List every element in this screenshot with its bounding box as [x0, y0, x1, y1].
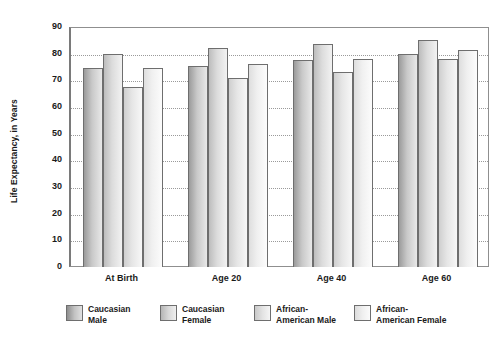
bar[interactable] — [458, 50, 478, 267]
y-tick-label-60: 60 — [34, 102, 62, 111]
bar[interactable] — [333, 72, 353, 267]
x-tick-label-4: Age 60 — [384, 273, 489, 283]
bar[interactable] — [123, 87, 143, 267]
legend-item-3[interactable]: African- American Male — [254, 304, 336, 326]
bar[interactable] — [143, 68, 163, 267]
bar[interactable] — [228, 78, 248, 267]
bar[interactable] — [353, 59, 373, 267]
bar-chart: Life Expectancy, in Years 90807060504030… — [0, 0, 504, 348]
legend-label: Caucasian Female — [182, 304, 225, 326]
bar[interactable] — [208, 48, 228, 267]
y-tick-label-70: 70 — [34, 75, 62, 84]
legend-swatch-icon — [66, 305, 83, 321]
chart-legend: Caucasian MaleCaucasian FemaleAfrican- A… — [66, 304, 496, 334]
y-tick-label-90: 90 — [34, 22, 62, 31]
bar-group-4 — [385, 27, 490, 267]
legend-item-4[interactable]: African- American Female — [354, 304, 446, 326]
legend-label: African- American Female — [376, 304, 446, 326]
legend-swatch-icon — [354, 305, 371, 321]
bar[interactable] — [103, 54, 123, 267]
y-tick-label-10: 10 — [34, 235, 62, 244]
legend-label: Caucasian Male — [88, 304, 131, 326]
bar[interactable] — [188, 66, 208, 267]
legend-label: African- American Male — [276, 304, 336, 326]
y-tick-label-20: 20 — [34, 209, 62, 218]
legend-swatch-icon — [160, 305, 177, 321]
y-tick-label-80: 80 — [34, 49, 62, 58]
bar[interactable] — [248, 64, 268, 267]
x-tick-label-2: Age 20 — [174, 273, 279, 283]
bar[interactable] — [293, 60, 313, 267]
legend-item-2[interactable]: Caucasian Female — [160, 304, 225, 326]
bar-group-2 — [175, 27, 280, 267]
y-tick-label-50: 50 — [34, 129, 62, 138]
legend-item-1[interactable]: Caucasian Male — [66, 304, 131, 326]
bar[interactable] — [83, 68, 103, 267]
y-axis-title: Life Expectancy, in Years — [9, 51, 19, 251]
y-tick-label-0: 0 — [34, 262, 62, 271]
y-tick-label-30: 30 — [34, 182, 62, 191]
bar[interactable] — [398, 54, 418, 267]
bar[interactable] — [313, 44, 333, 267]
bar-groups — [70, 27, 488, 267]
legend-swatch-icon — [254, 305, 271, 321]
bar-group-3 — [280, 27, 385, 267]
x-tick-label-1: At Birth — [69, 273, 174, 283]
bar[interactable] — [418, 40, 438, 267]
y-tick-label-40: 40 — [34, 155, 62, 164]
bar-group-1 — [70, 27, 175, 267]
x-tick-label-3: Age 40 — [279, 273, 384, 283]
bar[interactable] — [438, 59, 458, 267]
